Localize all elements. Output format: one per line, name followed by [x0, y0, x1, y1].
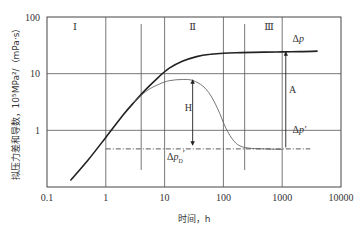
y-tick-label: 1: [35, 125, 40, 136]
x-tick-label: 1000: [272, 192, 292, 203]
annotation-h: H: [185, 102, 192, 113]
annotation-delta-p-prime: Δp′: [293, 124, 307, 135]
region-label: Ⅲ: [264, 21, 274, 32]
series-delta-p-derivative: [134, 79, 282, 149]
region-label: Ⅰ: [73, 21, 77, 32]
series-delta-p: [70, 51, 317, 180]
chart: ⅠⅡⅢ0.1110100100010000110100 ΔpAΔp′HΔpD′ …: [0, 0, 363, 242]
y-tick-label: 10: [30, 68, 40, 79]
x-tick-label: 100: [216, 192, 231, 203]
x-tick-label: 0.1: [41, 192, 54, 203]
x-axis-label: 时间，h: [178, 213, 211, 224]
annotation-delta-p: Δp: [293, 33, 304, 44]
annotation-a: A: [289, 84, 297, 95]
x-tick-label: 10: [160, 192, 170, 203]
y-axis-label: 拟压力差和导数，10⁵MPa²/（mPa·s）: [10, 24, 21, 181]
annotation-delta-pd-prime: ΔpD′: [167, 148, 185, 164]
y-tick-label: 100: [25, 12, 40, 23]
x-tick-label: 1: [103, 192, 108, 203]
x-tick-label: 10000: [329, 192, 354, 203]
region-label: Ⅱ: [189, 21, 196, 32]
series-group: [70, 51, 317, 180]
